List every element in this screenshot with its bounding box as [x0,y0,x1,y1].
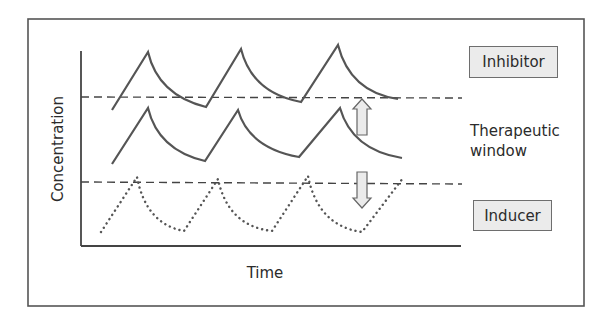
increase-arrow-icon [353,99,371,135]
x-axis-label: Time [247,266,284,281]
inhibitor-curve [112,45,398,110]
y-axis-label: Concentration [51,96,66,202]
inhibitor-tag-label: Inhibitor [482,53,545,71]
drug-interaction-diagram: Concentration Time Inhibitor Therapeutic… [0,0,610,322]
decrease-arrow-icon [353,172,371,208]
therapeutic-window-line1: Therapeutic [470,121,570,141]
inducer-tag: Inducer [473,200,552,231]
therapeutic-window-label: Therapeutic window [470,121,570,161]
inhibitor-tag: Inhibitor [469,46,558,78]
upper-threshold-line [81,97,462,98]
inducer-tag-label: Inducer [484,207,541,225]
therapeutic-window-line2: window [470,141,570,161]
